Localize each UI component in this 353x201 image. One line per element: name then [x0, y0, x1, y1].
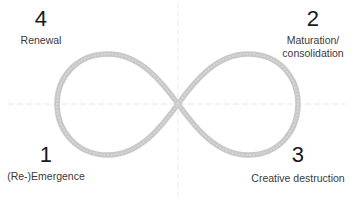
phase-label-line1: Maturation/ [282, 34, 343, 47]
phase-1-emergence: 1 (Re-)Emergence [7, 144, 85, 183]
phase-label: Renewal [21, 34, 62, 47]
phase-label: Creative destruction [251, 172, 344, 185]
phase-4-renewal: 4 Renewal [21, 8, 62, 47]
phase-number: 4 [21, 8, 62, 30]
phase-2-maturation: 2 Maturation/ consolidation [282, 8, 343, 59]
phase-label: (Re-)Emergence [7, 170, 85, 183]
phase-number: 3 [251, 144, 344, 166]
phase-label-line2: consolidation [282, 47, 343, 60]
phase-number: 2 [282, 8, 343, 30]
phase-3-creative-destruction: 3 Creative destruction [251, 144, 344, 185]
phase-number: 1 [7, 144, 85, 166]
